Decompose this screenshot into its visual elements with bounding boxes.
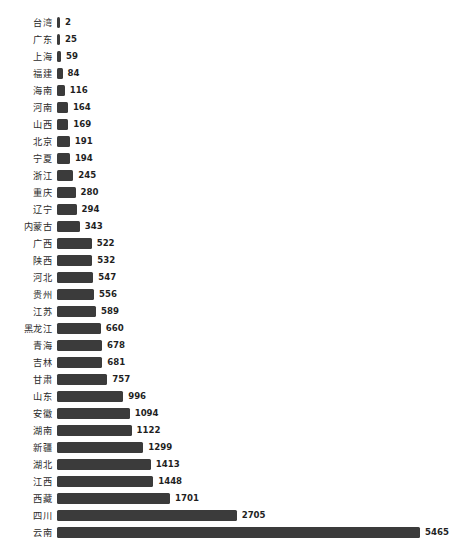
category-label: 云南: [0, 524, 52, 541]
bar-row: 山西169: [0, 116, 467, 133]
bar-row: 江苏589: [0, 303, 467, 320]
bar-track: 1413: [57, 456, 180, 473]
bar-row: 贵州556: [0, 286, 467, 303]
bar: [57, 476, 153, 487]
category-label: 江西: [0, 473, 52, 490]
category-label: 福建: [0, 65, 52, 82]
bar-track: 1448: [57, 473, 182, 490]
bar: [57, 510, 237, 521]
category-label: 浙江: [0, 167, 52, 184]
bar-value-label: 245: [78, 170, 96, 181]
bar-row: 重庆280: [0, 184, 467, 201]
category-label: 北京: [0, 133, 52, 150]
bar-row: 河北547: [0, 269, 467, 286]
bar: [57, 187, 76, 198]
bar-track: 522: [57, 235, 115, 252]
bar: [57, 170, 73, 181]
bar: [57, 493, 170, 504]
bar: [57, 153, 70, 164]
bar: [57, 51, 61, 62]
bar-row: 北京191: [0, 133, 467, 150]
bar-track: 169: [57, 116, 91, 133]
category-label: 西藏: [0, 490, 52, 507]
category-label: 新疆: [0, 439, 52, 456]
bar-value-label: 1448: [158, 476, 182, 487]
bar-track: 556: [57, 286, 117, 303]
bar-value-label: 343: [85, 221, 103, 232]
bar-value-label: 2: [65, 17, 71, 28]
bar-track: 280: [57, 184, 99, 201]
category-label: 上海: [0, 48, 52, 65]
bar-track: 5465: [57, 524, 449, 541]
bar-track: 116: [57, 82, 88, 99]
bar: [57, 391, 123, 402]
bar: [57, 408, 130, 419]
bar-value-label: 5465: [425, 527, 449, 538]
category-label: 河北: [0, 269, 52, 286]
bar-track: 547: [57, 269, 116, 286]
bar-row: 浙江245: [0, 167, 467, 184]
bar-track: 660: [57, 320, 124, 337]
bar-track: 294: [57, 201, 99, 218]
bar-track: 343: [57, 218, 103, 235]
category-label: 黑龙江: [0, 320, 52, 337]
bar: [57, 17, 60, 28]
bar-value-label: 589: [101, 306, 119, 317]
bar: [57, 68, 63, 79]
category-label: 贵州: [0, 286, 52, 303]
category-label: 宁夏: [0, 150, 52, 167]
bar: [57, 34, 60, 45]
bar-value-label: 116: [70, 85, 88, 96]
bar-value-label: 660: [106, 323, 124, 334]
category-label: 广东: [0, 31, 52, 48]
category-label: 山西: [0, 116, 52, 133]
category-label: 山东: [0, 388, 52, 405]
bar-track: 1122: [57, 422, 160, 439]
bar-row: 青海678: [0, 337, 467, 354]
bar-value-label: 194: [75, 153, 93, 164]
bar-track: 59: [57, 48, 78, 65]
bar-row: 云南5465: [0, 524, 467, 541]
bar-track: 681: [57, 354, 125, 371]
bar-row: 陕西532: [0, 252, 467, 269]
category-label: 河南: [0, 99, 52, 116]
bar-row: 安徽1094: [0, 405, 467, 422]
bar-value-label: 532: [97, 255, 115, 266]
bar-row: 河南164: [0, 99, 467, 116]
bar: [57, 527, 420, 538]
bar-track: 1299: [57, 439, 172, 456]
bar-track: 245: [57, 167, 96, 184]
bar: [57, 136, 70, 147]
bar-row: 海南116: [0, 82, 467, 99]
category-label: 重庆: [0, 184, 52, 201]
bar-value-label: 678: [107, 340, 125, 351]
bar-value-label: 280: [81, 187, 99, 198]
category-label: 四川: [0, 507, 52, 524]
bar-row: 福建84: [0, 65, 467, 82]
bar-row: 西藏1701: [0, 490, 467, 507]
category-label: 江苏: [0, 303, 52, 320]
bar-track: 532: [57, 252, 115, 269]
bar-row: 宁夏194: [0, 150, 467, 167]
bar-value-label: 522: [97, 238, 115, 249]
bar-value-label: 1413: [156, 459, 180, 470]
bar-value-label: 681: [107, 357, 125, 368]
bar-value-label: 294: [82, 204, 100, 215]
bar-track: 25: [57, 31, 77, 48]
bar-row: 台湾2: [0, 14, 467, 31]
bar-track: 1701: [57, 490, 199, 507]
bar-row: 广东25: [0, 31, 467, 48]
bar-value-label: 1701: [175, 493, 199, 504]
bar-track: 1094: [57, 405, 159, 422]
bar-value-label: 556: [99, 289, 117, 300]
category-label: 安徽: [0, 405, 52, 422]
bar-row: 吉林681: [0, 354, 467, 371]
bar-track: 757: [57, 371, 130, 388]
bar-value-label: 2705: [242, 510, 266, 521]
bar-value-label: 757: [112, 374, 130, 385]
bar-row: 新疆1299: [0, 439, 467, 456]
bar-value-label: 169: [73, 119, 91, 130]
bar-row: 上海59: [0, 48, 467, 65]
category-label: 甘肃: [0, 371, 52, 388]
bar-track: 191: [57, 133, 93, 150]
